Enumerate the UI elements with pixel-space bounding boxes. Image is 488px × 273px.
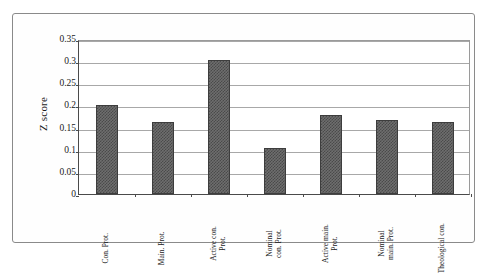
x-tick-label-text: Nominal con. Prot. — [266, 224, 283, 264]
bar — [432, 122, 454, 194]
y-tick-label: 0.1 — [64, 146, 76, 156]
y-tick-mark — [76, 174, 79, 175]
y-tick-mark — [76, 41, 79, 42]
y-tick-label: 0 — [71, 190, 76, 200]
y-tick-label: 0.2 — [64, 102, 76, 112]
x-tick-label-text: Theological con. — [438, 223, 447, 273]
y-tick-mark — [76, 130, 79, 131]
y-tick-mark — [76, 152, 79, 153]
bar — [264, 148, 286, 194]
y-tick-mark — [76, 85, 79, 86]
x-tick-label-text: Con. Prot. — [102, 232, 111, 263]
y-axis-tick-labels: 00.050.10.150.20.250.30.35 — [49, 40, 76, 195]
y-tick-label: 0.15 — [59, 124, 76, 134]
y-tick-label: 0.3 — [64, 57, 76, 67]
x-tick-label: Active con. Prot. — [198, 196, 238, 252]
x-axis-tick-labels: Con. Prot.Main. Prot.Active con. Prot.No… — [78, 196, 470, 254]
y-tick-label: 0.25 — [59, 80, 76, 90]
x-tick-label-text: Nominal main. Prot. — [378, 224, 395, 264]
x-tick-label: Active main. Prot. — [310, 196, 350, 252]
x-tick-mark — [471, 194, 472, 197]
gridline — [79, 85, 469, 86]
x-tick-label: Nominal main. Prot. — [366, 196, 406, 252]
y-axis-title-text: Z score — [37, 97, 49, 131]
y-tick-mark — [76, 63, 79, 64]
y-tick-label: 0.35 — [59, 35, 76, 45]
x-tick-label: Theological con. — [422, 196, 462, 252]
figure-frame: Z score 00.050.10.150.20.250.30.35 Con. … — [12, 13, 475, 243]
x-tick-label-text: Active con. Prot. — [210, 224, 227, 264]
gridline — [79, 107, 469, 108]
x-tick-label-text: Active main. Prot. — [322, 224, 339, 264]
x-tick-label: Main. Prot. — [142, 196, 182, 252]
bar — [208, 60, 230, 194]
bar — [152, 122, 174, 194]
gridline — [79, 41, 469, 42]
x-tick-label: Con. Prot. — [86, 196, 126, 252]
x-tick-label-text: Main. Prot. — [158, 231, 167, 265]
y-tick-mark — [76, 107, 79, 108]
gridline — [79, 130, 469, 131]
gridline — [79, 63, 469, 64]
x-tick-label: Nominal con. Prot. — [254, 196, 294, 252]
bar — [376, 120, 398, 194]
bar — [320, 115, 342, 194]
bar — [96, 105, 118, 194]
y-tick-label: 0.05 — [59, 168, 76, 178]
plot-area — [78, 40, 470, 195]
